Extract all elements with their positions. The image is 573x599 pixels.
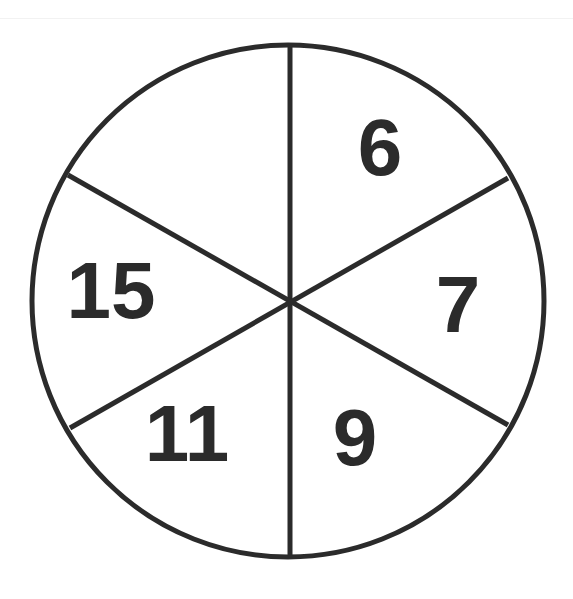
sector-bottom-right-number: 9: [333, 393, 378, 482]
sector-left-number: 15: [67, 246, 156, 335]
sector-right-number: 7: [436, 260, 481, 349]
sector-circle-diagram: 6 7 9 11 15: [0, 0, 573, 599]
sector-bottom-left-number: 11: [145, 389, 230, 478]
sector-top-right-number: 6: [358, 103, 403, 192]
